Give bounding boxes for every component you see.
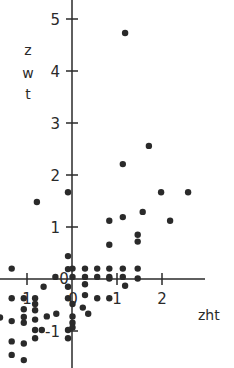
y-tick-label: -1 — [45, 323, 60, 341]
data-point — [94, 265, 100, 271]
data-point — [120, 274, 126, 280]
data-point — [106, 265, 112, 271]
data-point — [21, 314, 27, 320]
data-point — [65, 295, 71, 301]
data-point — [65, 253, 71, 259]
data-point — [135, 232, 141, 238]
data-point — [32, 335, 38, 341]
y-tick-label: 4 — [50, 63, 60, 81]
data-point — [69, 265, 75, 271]
data-point — [21, 357, 27, 363]
data-point — [65, 327, 71, 333]
data-point — [21, 340, 27, 346]
y-axis-label-t: t — [25, 86, 31, 102]
data-point — [185, 189, 191, 195]
x-axis-label: zht — [198, 307, 220, 323]
y-axis-label-w: w — [22, 65, 33, 81]
y-axis: -1123450 — [45, 0, 78, 368]
data-point — [32, 301, 38, 307]
data-point — [0, 314, 3, 320]
data-point — [9, 318, 15, 324]
scatter-plot: 1120 -1123450 z w t zht — [0, 0, 234, 368]
data-point — [39, 327, 45, 333]
data-point — [120, 265, 126, 271]
y-tick-label: 1 — [50, 219, 60, 237]
data-point — [32, 295, 38, 301]
data-point — [120, 161, 126, 167]
data-point — [53, 311, 59, 317]
data-point — [34, 199, 40, 205]
data-point — [69, 301, 75, 307]
data-point — [158, 189, 164, 195]
data-point — [167, 218, 173, 224]
data-point — [135, 238, 141, 244]
data-point — [44, 313, 50, 319]
data-point — [9, 338, 15, 344]
x-axis: 1120 — [0, 270, 205, 308]
data-point — [21, 306, 27, 312]
data-point — [40, 284, 46, 290]
data-point — [65, 189, 71, 195]
data-point — [52, 274, 58, 280]
data-point — [135, 275, 141, 281]
data-point — [9, 295, 15, 301]
data-point — [80, 304, 86, 310]
data-point — [140, 209, 146, 215]
data-point — [122, 30, 128, 36]
data-point — [32, 327, 38, 333]
data-point — [120, 214, 126, 220]
data-point — [135, 265, 141, 271]
data-point — [9, 265, 15, 271]
data-point — [122, 283, 128, 289]
data-point — [21, 320, 27, 326]
x-tick-label: 2 — [157, 290, 167, 308]
data-point — [85, 311, 91, 317]
data-point — [82, 274, 88, 280]
y-axis-label-z: z — [24, 42, 31, 58]
data-point — [106, 242, 112, 248]
data-point — [106, 295, 112, 301]
x-tick-label: 1 — [112, 290, 122, 308]
data-point — [69, 313, 75, 319]
data-point — [65, 335, 71, 341]
data-point — [9, 352, 15, 358]
data-point — [146, 143, 152, 149]
data-point — [82, 281, 88, 287]
y-tick-label: 3 — [50, 115, 60, 133]
data-point — [106, 275, 112, 281]
data-point — [21, 295, 27, 301]
y-tick-label: 2 — [50, 167, 60, 185]
data-point — [82, 265, 88, 271]
data-point — [94, 295, 100, 301]
data-point — [94, 274, 100, 280]
y-tick-label: 5 — [50, 11, 60, 29]
data-point — [106, 218, 112, 224]
data-point — [32, 307, 38, 313]
data-point — [82, 292, 88, 298]
data-point — [69, 274, 75, 280]
data-point — [65, 284, 71, 290]
data-point — [32, 316, 38, 322]
